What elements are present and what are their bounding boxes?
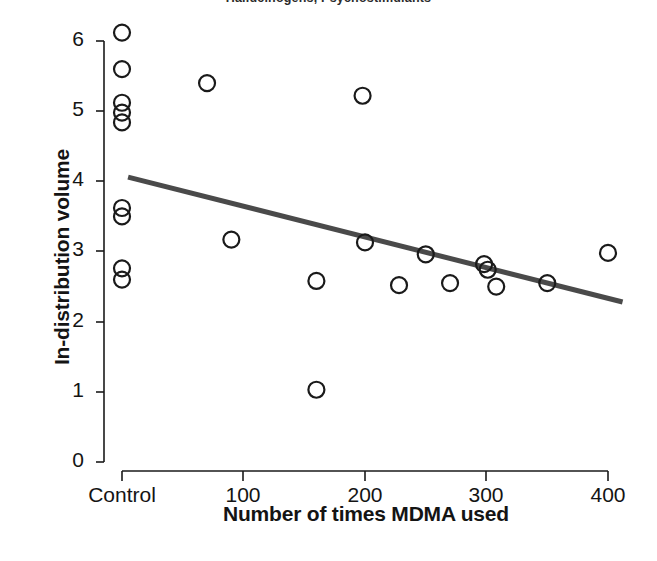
data-point (355, 88, 371, 104)
y-axis (96, 41, 104, 462)
data-points-group (114, 25, 616, 398)
scatter-plot (0, 0, 657, 561)
data-point (114, 25, 130, 41)
regression-trendline (128, 177, 623, 302)
data-point (114, 114, 130, 130)
y-tick-label-6: 6 (44, 27, 84, 51)
figure-container: Halluc­inogens, Psychostimulants (0, 0, 657, 561)
data-point (488, 279, 504, 295)
data-point (114, 61, 130, 77)
trend-line-group (128, 177, 623, 302)
data-point (308, 273, 324, 289)
y-tick-label-0: 0 (44, 448, 84, 472)
data-point (308, 382, 324, 398)
x-axis-title: Number of times MDMA used (120, 502, 612, 526)
y-axis-title: In-distribution volume (50, 122, 74, 392)
data-point (391, 277, 407, 293)
x-axis (122, 471, 608, 481)
data-point (442, 275, 458, 291)
data-point (223, 232, 239, 248)
data-point (199, 75, 215, 91)
data-point (600, 245, 616, 261)
data-point (114, 272, 130, 288)
y-tick-label-5: 5 (44, 97, 84, 121)
